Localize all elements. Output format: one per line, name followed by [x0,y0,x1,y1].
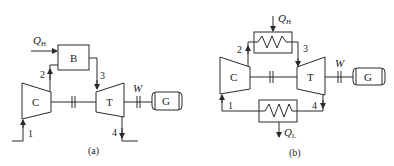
state-label-3: 3 [303,43,308,54]
state-label-4: 4 [112,127,117,138]
state-label-1: 1 [28,128,33,139]
flow-line-3 [89,58,97,84]
compressor-label: C [230,71,237,83]
work-label: W [133,82,143,94]
work-label: W [335,57,345,69]
flow-line-4 [297,95,323,111]
flow-line-2 [50,65,58,92]
exhaust-line-4 [122,117,138,141]
generator-label: G [364,71,372,83]
panel-b-closed-cycle: QH 2 3 C T W G 1 [220,12,385,159]
burner-label: B [70,52,77,64]
state-label-1: 1 [228,100,233,111]
caption-b: (b) [289,147,301,159]
heat-input-label: QH [33,34,46,48]
turbine-label: T [307,71,314,83]
state-label-2: 2 [40,69,45,80]
state-label-2: 2 [237,44,242,55]
gas-turbine-diagrams: QH B 2 3 C T W G 1 [0,0,394,166]
compressor-label: C [32,96,39,108]
heat-input-label: QH [278,12,291,26]
generator-label: G [162,95,170,107]
state-label-3: 3 [100,70,105,81]
turbine-label: T [106,96,113,108]
caption-a: (a) [88,145,99,157]
state-label-4: 4 [312,100,317,111]
heat-output-label: QL [284,126,296,140]
panel-a-open-cycle: QH B 2 3 C T W G 1 [12,34,182,157]
inlet-line-1 [12,124,23,141]
